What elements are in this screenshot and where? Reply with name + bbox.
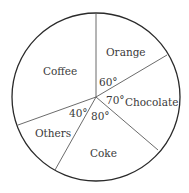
slice-label-chocolate: Chocolate (125, 96, 178, 108)
slice-label-coffee: Coffee (43, 65, 77, 77)
pie-chart: Orange Chocolate Coke Others Coffee 60° … (0, 0, 189, 193)
angle-label-coke: 80° (91, 110, 110, 122)
angle-label-others: 40° (69, 107, 88, 119)
slice-label-coke: Coke (90, 147, 117, 159)
angle-label-chocolate: 70° (106, 94, 125, 106)
slice-label-orange: Orange (106, 46, 146, 58)
angle-label-orange: 60° (99, 76, 118, 88)
slice-label-others: Others (35, 127, 71, 139)
